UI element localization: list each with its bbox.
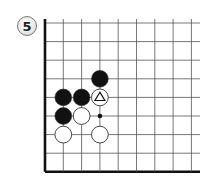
white-stone	[73, 108, 90, 125]
go-board	[0, 0, 211, 184]
board-markers	[98, 114, 103, 119]
black-stone	[92, 70, 109, 87]
black-stone	[55, 89, 72, 106]
black-stone	[73, 89, 90, 106]
dot-marker-icon	[98, 114, 103, 119]
black-stone	[55, 108, 72, 125]
white-stone	[92, 126, 109, 143]
white-stone	[55, 126, 72, 143]
